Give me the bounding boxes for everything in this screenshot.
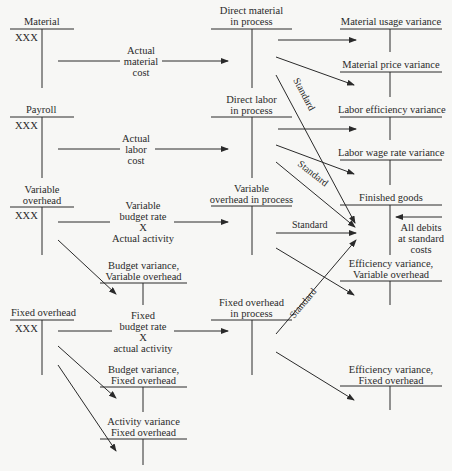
standard-label-dm: Standard [291, 76, 317, 113]
labor-efficiency-variance-title: Labor efficiency variance [338, 104, 444, 115]
material-usage-variance-title: Material usage variance [340, 16, 442, 27]
fixed-overhead-entry: XXX [15, 323, 38, 334]
standard-label-vo: Standard [292, 219, 328, 230]
material-entry: XXX [15, 32, 38, 43]
vo-in-process-title: Variableoverhead in process [206, 183, 297, 205]
budget-variance-vo-title: Budget variance,Variable overhead [100, 260, 187, 282]
fixed-rate-label: Fixedbudget rateXactual activity [110, 310, 176, 354]
actual-labor-cost-label: Actuallaborcost [116, 133, 156, 166]
actual-material-cost-label: Actualmaterialcost [116, 45, 166, 78]
material-account-title: Material [24, 16, 60, 27]
variable-overhead-entry: XXX [15, 210, 38, 221]
budget-variance-fo-title: Budget variance,Fixed overhead [100, 364, 187, 386]
fo-in-process-title: Fixed overheadin process [211, 297, 292, 319]
efficiency-variance-vo-title: Efficiency variance,Variable overhead [340, 258, 442, 280]
material-price-variance-title: Material price variance [340, 59, 442, 70]
dm-in-process-title: Direct materialin process [211, 5, 292, 27]
efficiency-variance-fo-title: Efficiency variance,Fixed overhead [340, 364, 442, 386]
finished-goods-title: Finished goods [340, 192, 442, 203]
dl-in-process-title: Direct laborin process [211, 94, 292, 116]
labor-wage-rate-variance-title: Labor wage rate variance [338, 147, 444, 158]
variable-overhead-title: Variableoverhead [20, 184, 64, 206]
activity-variance-fo-title: Activity varianceFixed overhead [100, 416, 187, 438]
payroll-account-title: Payroll [26, 104, 56, 115]
standard-label-dl: Standard [296, 158, 331, 189]
flow-diagram: Standard Standard Standard Standard [0, 0, 452, 471]
fixed-overhead-title: Fixed overhead [11, 307, 76, 318]
variable-rate-label: Variablebudget rateXActual activity [110, 200, 176, 244]
all-debits-label: All debitsat standardcosts [396, 222, 446, 255]
payroll-entry: XXX [15, 120, 38, 131]
